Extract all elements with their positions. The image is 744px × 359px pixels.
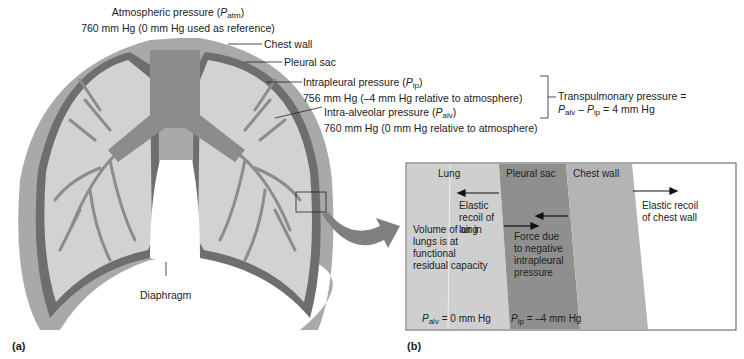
intra-alveolar-pressure-label: Intra-alveolar pressure (Palv) 760 mm Hg… (324, 106, 538, 135)
intrapleural-pressure-label: Intrapleural pressure (Pip) 756 mm Hg (–… (303, 76, 522, 105)
panel-a-label: (a) (12, 340, 25, 352)
lung-label: Lung (438, 168, 460, 180)
panel-b-label: (b) (407, 340, 421, 352)
lung-diagram (0, 0, 744, 359)
pleural-sac-b-label: Pleural sac (506, 168, 555, 180)
volume-frc-label: Volume of air inlungs is atfunctionalres… (413, 224, 487, 272)
chest-wall-b-label: Chest wall (573, 168, 619, 180)
diaphragm-label: Diaphragm (140, 289, 191, 302)
pip-value-label: Pip = –4 mm Hg (511, 313, 581, 328)
pleural-sac-label: Pleural sac (284, 56, 336, 69)
atmospheric-pressure-label: Atmospheric pressure (Patm) 760 mm Hg (0… (58, 6, 298, 35)
elastic-recoil-chest-label: Elastic recoilof chest wall (642, 200, 698, 224)
palv-value-label: Palv = 0 mm Hg (422, 313, 491, 328)
force-intrapleural-label: Force dueto negativeintrapleuralpressure (514, 231, 563, 279)
transpulmonary-pressure-label: Transpulmonary pressure = Palv – Pip = 4… (558, 90, 686, 119)
chest-wall-label: Chest wall (264, 38, 312, 51)
